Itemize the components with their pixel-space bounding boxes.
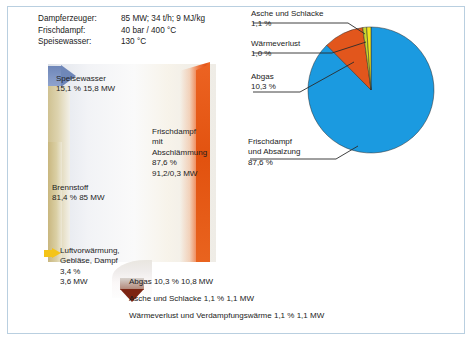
callout-waerme-label: Wärmeverlust bbox=[251, 39, 300, 49]
callout-frisch-label2: und Absalzung bbox=[248, 147, 301, 157]
air-line1: Luftvorwärmung, bbox=[60, 246, 120, 255]
callout-asche-value: 1,1 % bbox=[251, 19, 324, 29]
callout-abgas: Abgas 10,3 % bbox=[251, 72, 276, 93]
sankey-label-air-preheat: Luftvorwärmung, Gebläse, Dampf 3,4 % 3,6… bbox=[60, 246, 120, 288]
param-key: Speisewasser: bbox=[38, 36, 121, 48]
feedwater-line2: 15,1 % 15,8 MW bbox=[56, 84, 115, 93]
fuel-line2: 81,4 % 85 MW bbox=[52, 193, 104, 202]
sankey-label-steam: Frischdampf mit Abschlämmung 87,6 % 91,2… bbox=[152, 127, 207, 179]
sankey-label-feedwater: Speisewasser 15,1 % 15,8 MW bbox=[56, 74, 115, 95]
steam-line3: Abschlämmung bbox=[152, 148, 207, 157]
parameter-table: Dampferzeuger: 85 MW; 34 t/h; 9 MJ/kg Fr… bbox=[38, 13, 205, 48]
bottom-legend-asche: Asche und Schlacke 1,1 % 1,1 MW bbox=[129, 294, 254, 303]
bottom-legend-abgas: Abgas 10,3 % 10,8 MW bbox=[129, 277, 213, 286]
callout-abgas-label: Abgas bbox=[251, 72, 276, 82]
sankey-label-fuel: Brennstoff 81,4 % 85 MW bbox=[52, 183, 104, 204]
fuel-line1: Brennstoff bbox=[52, 183, 88, 192]
param-row: Speisewasser: 130 °C bbox=[38, 36, 205, 48]
steam-line1: Frischdampf bbox=[152, 127, 196, 136]
air-line2: Gebläse, Dampf bbox=[60, 256, 118, 265]
steam-line4: 87,6 % bbox=[152, 158, 177, 167]
air-line3: 3,4 % bbox=[60, 267, 80, 276]
feedwater-line1: Speisewasser bbox=[56, 74, 106, 83]
steam-line5: 91,2/0,3 MW bbox=[152, 169, 197, 178]
callout-asche-label: Asche und Schlacke bbox=[251, 9, 324, 19]
air-line4: 3,6 MW bbox=[60, 277, 88, 286]
callout-frisch-label1: Frischdampf bbox=[248, 137, 301, 147]
screenshot-root: Dampferzeuger: 85 MW; 34 t/h; 9 MJ/kg Fr… bbox=[0, 0, 474, 342]
param-value: 85 MW; 34 t/h; 9 MJ/kg bbox=[121, 13, 205, 25]
callout-asche-und-schlacke: Asche und Schlacke 1,1 % bbox=[251, 9, 324, 30]
param-value: 40 bar / 400 °C bbox=[121, 25, 205, 37]
param-row: Dampferzeuger: 85 MW; 34 t/h; 9 MJ/kg bbox=[38, 13, 205, 25]
param-row: Frischdampf: 40 bar / 400 °C bbox=[38, 25, 205, 37]
callout-abgas-value: 10,3 % bbox=[251, 82, 276, 92]
param-key: Frischdampf: bbox=[38, 25, 121, 37]
steam-line2: mit bbox=[152, 137, 163, 146]
callout-waermeverlust: Wärmeverlust 1,0 % bbox=[251, 39, 300, 60]
pie-chart bbox=[307, 26, 435, 154]
callout-waerme-value: 1,0 % bbox=[251, 49, 300, 59]
pie-chart-svg bbox=[307, 26, 435, 154]
bottom-legend-waerme: Wärmeverlust und Verdampfungswärme 1,1 %… bbox=[129, 311, 324, 320]
param-key: Dampferzeuger: bbox=[38, 13, 121, 25]
callout-frischdampf: Frischdampf und Absalzung 87,6 % bbox=[248, 137, 301, 168]
callout-frisch-value: 87,6 % bbox=[248, 158, 301, 168]
param-value: 130 °C bbox=[121, 36, 205, 48]
